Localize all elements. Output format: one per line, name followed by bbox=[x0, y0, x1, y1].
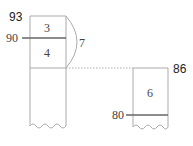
right-mark-label: 80 bbox=[112, 108, 124, 122]
left-segment-upper: 3 bbox=[44, 21, 50, 35]
brace-arc bbox=[66, 16, 77, 68]
left-column-wavy-bottom bbox=[30, 124, 66, 128]
right-top-label: 86 bbox=[173, 62, 187, 76]
left-top-label: 93 bbox=[9, 10, 23, 24]
left-segment-lower: 4 bbox=[44, 46, 50, 60]
left-mark-label: 90 bbox=[6, 31, 18, 45]
right-column-wavy-bottom bbox=[133, 125, 168, 129]
brace-total-label: 7 bbox=[79, 36, 85, 50]
diagram-canvas: 93 90 3 4 7 86 80 6 bbox=[0, 0, 193, 146]
right-segment-label: 6 bbox=[147, 86, 153, 100]
